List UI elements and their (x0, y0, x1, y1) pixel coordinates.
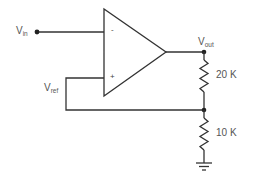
ground-icon (196, 163, 212, 170)
resistor-20k-label: 20 K (216, 70, 237, 80)
opamp-triangle (104, 9, 166, 96)
vref-label-main: V (44, 82, 51, 93)
resistor-10k (200, 118, 208, 150)
input-node-dot (35, 30, 40, 35)
vin-label: Vin (16, 26, 28, 38)
resistor-20k (200, 60, 208, 92)
vout-label-main: V (198, 36, 205, 47)
vout-label: Vout (198, 37, 214, 49)
noninverting-input-sign: + (110, 73, 115, 81)
resistor-10k-label: 10 K (216, 128, 237, 138)
inverting-input-sign: - (111, 26, 114, 34)
vin-label-main: V (16, 25, 23, 36)
vref-label-sub: ref (51, 87, 59, 94)
vin-label-sub: in (23, 30, 28, 37)
circuit-schematic (0, 0, 258, 179)
vout-label-sub: out (205, 41, 214, 48)
vref-label: Vref (44, 83, 58, 95)
reference-wire (66, 78, 204, 110)
